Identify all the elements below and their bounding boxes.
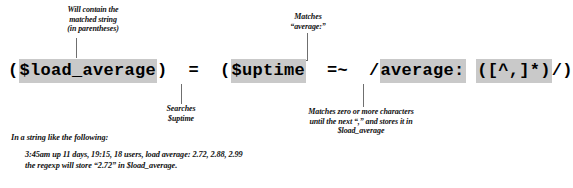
callout-load-average-line-1: Will contain the: [50, 5, 136, 15]
leader-line-uptime: [181, 84, 182, 104]
callout-average-literal-line-2: “average:”: [273, 22, 343, 32]
callout-uptime-line-1: Searches: [150, 104, 212, 114]
code-token-uptime: $uptime: [231, 59, 307, 83]
code-token-6: [466, 59, 477, 83]
footnote-example: 3:45am up 11 days, 19:15, 18 users, load…: [11, 150, 243, 160]
callout-load-average-line-2: matched string: [50, 15, 136, 25]
leader-line-load-average: [76, 38, 77, 58]
callout-capture-group-line-3: $load_average: [289, 126, 433, 136]
callout-uptime-line-2: $uptime: [150, 114, 212, 124]
code-token-load-average: $load_average: [19, 59, 158, 83]
callout-capture-group: Matches zero or more characters until th…: [289, 107, 433, 136]
code-token-capture-group: ([^,]*): [476, 59, 552, 83]
callout-load-average-line-3: (in parentheses): [50, 24, 136, 34]
code-token-8: /): [552, 59, 573, 83]
callout-uptime: Searches $uptime: [150, 104, 212, 123]
callout-load-average: Will contain the matched string (in pare…: [50, 5, 136, 34]
callout-average-literal-line-1: Matches: [273, 12, 343, 22]
code-token-4: =~ /: [306, 59, 380, 83]
leader-line-average-literal-vertical: [307, 33, 308, 60]
regex-expression: ($load_average) = ($uptime =~ /average: …: [8, 58, 573, 84]
code-token-0: (: [8, 59, 19, 83]
code-token-average-literal: average:: [380, 59, 466, 83]
leader-line-capture-group: [363, 84, 364, 107]
callout-capture-group-line-2: until the next “,” and stores it in: [289, 117, 433, 127]
footnote-conclusion: the regexp will store “2.72” in $load_av…: [11, 161, 177, 171]
callout-capture-group-line-1: Matches zero or more characters: [289, 107, 433, 117]
footnote-intro: In a string like the following:: [11, 133, 108, 143]
callout-average-literal: Matches “average:”: [273, 12, 343, 31]
code-token-2: ) = (: [157, 59, 231, 83]
